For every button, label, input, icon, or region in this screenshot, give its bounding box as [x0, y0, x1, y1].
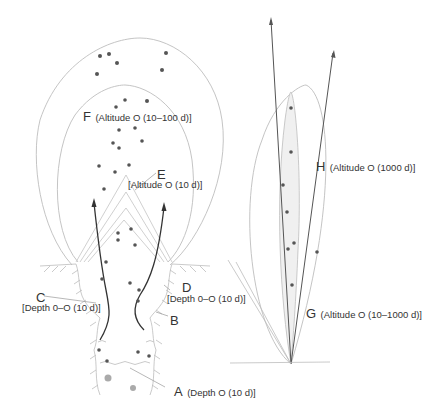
label-c-text: [Depth 0–O (10 d)]	[22, 303, 101, 313]
arrow-head-h-icon	[269, 17, 273, 25]
label-g: G (Altitude O (10–1000 d)]	[306, 305, 422, 321]
arrow-head-left-icon	[92, 198, 97, 207]
label-a-text: (Depth O (10 d)]	[187, 387, 256, 398]
vent-top-boundary	[98, 341, 154, 343]
label-b-letter: B	[170, 313, 179, 328]
leader-lines	[44, 173, 170, 387]
gray-dots	[105, 375, 137, 392]
label-g-letter: G	[306, 306, 316, 321]
label-g-text: (Altitude O (10–1000 d)]	[321, 309, 422, 320]
label-h-text: (Altitude O (1000 d)]	[330, 162, 416, 173]
label-f: F (Altitude O (10–100 d)]	[83, 108, 192, 124]
ground-left	[40, 264, 100, 395]
label-a-letter: A	[174, 384, 183, 399]
arrow-head-right-icon	[162, 202, 167, 211]
outer-plume-envelope	[36, 38, 223, 265]
ground-right	[150, 264, 210, 395]
label-f-letter: F	[83, 109, 91, 124]
label-e-text: [Altitude O (10 d)]	[128, 180, 202, 190]
label-d-text: [Depth 0–O (10 d)]	[167, 294, 246, 304]
label-h: H (Altitude O (1000 d)]	[316, 158, 415, 174]
label-f-text: (Altitude O (10–100 d)]	[95, 112, 191, 123]
arrow-head-g-icon	[331, 50, 336, 58]
label-h-letter: H	[316, 159, 325, 174]
eruption-diagram	[0, 0, 436, 411]
flow-arrows	[94, 203, 164, 340]
label-a: A (Depth O (10 d)]	[174, 383, 256, 399]
label-b: B	[170, 312, 179, 328]
